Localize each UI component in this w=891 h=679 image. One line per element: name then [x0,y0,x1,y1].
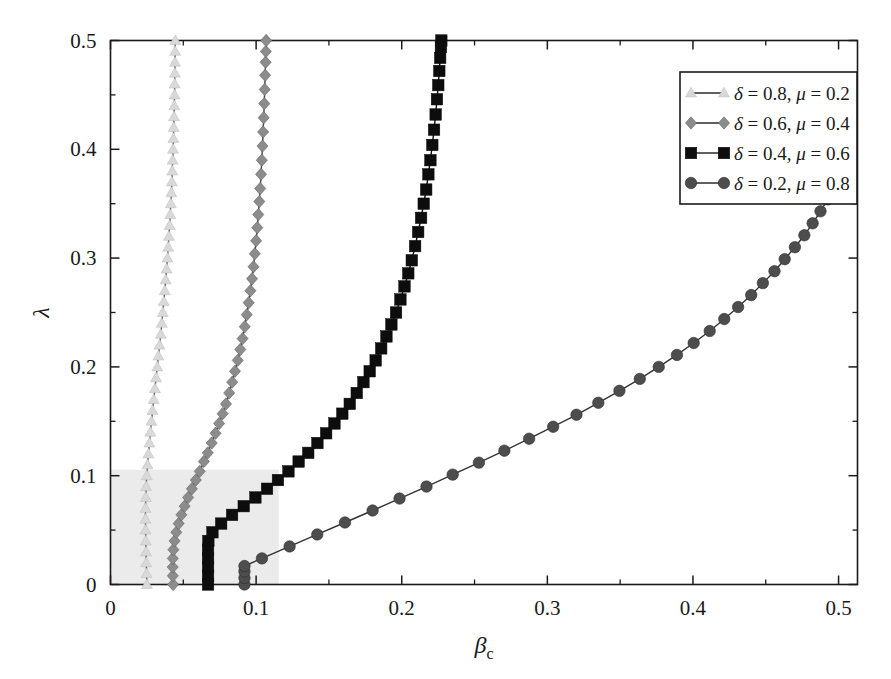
data-point-square [428,124,440,136]
x-tick-label: 0.5 [825,596,851,620]
data-point-circle [815,206,826,217]
data-point-square [250,492,262,504]
data-point-square [215,518,227,530]
legend-label: δ = 0.8, μ = 0.2 [734,83,850,104]
data-point-circle [499,445,510,456]
data-point-square [423,169,435,181]
data-point-triangle [169,57,180,67]
data-point-circle [447,469,458,480]
y-tick-label: 0.3 [70,246,96,270]
data-point-triangle [157,307,168,317]
data-point-triangle [142,459,153,469]
y-tick-label: 0.2 [70,355,96,379]
data-point-circle [614,385,625,396]
data-point-triangle [170,35,181,45]
data-point-square [399,281,411,293]
data-point-triangle [169,67,180,77]
x-tick-label: 0.3 [534,596,560,620]
data-point-square [283,466,295,478]
data-point-triangle [158,296,169,306]
y-tick-label: 0.4 [70,137,97,161]
data-point-diamond [258,126,269,138]
data-point-square [358,376,370,388]
data-point-triangle [162,252,173,262]
data-point-square [375,343,387,355]
data-point-circle [547,421,558,432]
x-tick-label: 0.1 [243,596,269,620]
data-point-diamond [260,56,271,68]
data-point-circle [239,560,250,571]
data-point-square [238,500,250,512]
data-point-triangle [146,416,157,426]
data-point-square [436,35,448,47]
data-point-triangle [168,122,179,132]
data-point-square [434,52,446,64]
legend-box[interactable]: δ = 0.8, μ = 0.2δ = 0.6, μ = 0.4δ = 0.4,… [680,72,857,204]
data-point-circle [779,253,790,264]
data-point-square [364,366,376,378]
data-point-square [406,255,418,267]
data-point-square [370,355,382,367]
data-point-circle [688,337,699,348]
data-point-triangle [145,426,156,436]
data-point-circle [807,218,818,229]
data-point-circle [284,541,295,552]
data-point-diamond [259,97,270,109]
data-point-square [386,319,398,331]
data-point-diamond [254,195,265,207]
data-point-triangle [155,329,166,339]
y-axis-title: λ [28,307,54,318]
data-point-diamond [257,140,268,152]
data-point-square [415,212,427,224]
series-3 [202,35,447,591]
data-point-diamond [235,343,246,355]
x-tick-label: 0.4 [680,596,707,620]
data-point-triangle [166,187,177,197]
data-point-triangle [167,165,178,175]
data-point-circle [685,177,696,188]
data-point-triangle [144,437,155,447]
data-point-triangle [165,209,176,219]
data-point-circle [312,529,323,540]
data-point-square [718,147,730,159]
data-point-triangle [148,394,159,404]
data-point-diamond [243,297,254,309]
data-point-square [351,387,363,399]
data-point-square [272,474,284,486]
data-point-circle [473,457,484,468]
data-point-circle [394,493,405,504]
data-point-triangle [168,133,179,143]
data-point-triangle [170,46,181,56]
data-point-circle [745,289,756,300]
data-point-square [420,184,432,196]
data-point-square [418,198,430,210]
data-point-triangle [154,339,165,349]
data-point-triangle [147,405,158,415]
data-point-circle [523,433,534,444]
data-point-diamond [229,365,240,377]
data-point-triangle [161,263,172,273]
data-point-diamond [259,83,270,95]
data-point-square [381,331,393,343]
data-point-triangle [169,78,180,88]
data-point-triangle [156,318,167,328]
data-point-diamond [239,320,250,332]
data-point-diamond [248,261,259,273]
data-point-square [344,398,356,410]
data-point-triangle [153,350,164,360]
data-point-square [409,240,421,252]
data-point-square [425,154,437,166]
data-point-square [433,79,445,91]
data-point-diamond [237,332,248,344]
data-point-diamond [249,248,260,260]
data-point-circle [799,230,810,241]
data-point-triangle [168,111,179,121]
data-point-triangle [166,176,177,186]
data-point-triangle [169,89,180,99]
legend-label: δ = 0.4, μ = 0.6 [734,143,850,164]
data-point-square [430,109,442,121]
data-point-triangle [149,383,160,393]
data-point-circle [571,409,582,420]
data-point-diamond [245,285,256,297]
data-point-square [434,65,446,77]
